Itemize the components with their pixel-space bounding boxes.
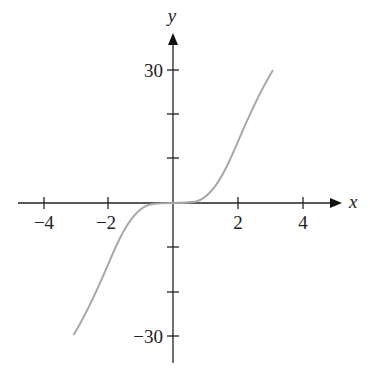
y-tick-label-30: 30	[144, 60, 163, 81]
x-tick-label-2: 2	[233, 212, 243, 233]
y-axis-arrow-icon	[168, 33, 178, 45]
x-tick-label-neg4: −4	[34, 212, 55, 233]
x-tick-label-neg2: −2	[96, 212, 116, 233]
y-tick-label-neg30: −30	[133, 326, 163, 347]
y-axis-label: y	[166, 5, 177, 26]
x-axis-label: x	[348, 191, 358, 212]
x-tick-label-4: 4	[298, 212, 308, 233]
x-axis-arrow-icon	[330, 198, 342, 208]
cubic-function-plot: −4 −2 2 4 30 −30 x y	[0, 0, 369, 381]
